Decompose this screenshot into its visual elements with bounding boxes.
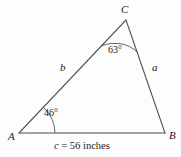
vertex-label-A: A <box>8 131 15 142</box>
vertex-label-C: C <box>121 4 129 15</box>
angle-label-at-A: 46° <box>44 108 58 118</box>
base-caption: c = 56 inches <box>54 141 110 152</box>
triangle-svg-canvas <box>0 0 181 157</box>
side-b-segment <box>19 20 126 133</box>
caption-equals: = <box>59 140 70 151</box>
vertex-label-B: B <box>169 130 176 141</box>
angle-label-at-C: 63° <box>108 45 122 55</box>
side-a-segment <box>126 20 165 133</box>
side-label-b: b <box>60 62 66 73</box>
triangle-diagram-figure: C A B b a 63° 46° c = 56 inches <box>0 0 181 157</box>
caption-value: 56 inches <box>70 140 110 151</box>
side-label-a: a <box>152 62 158 73</box>
